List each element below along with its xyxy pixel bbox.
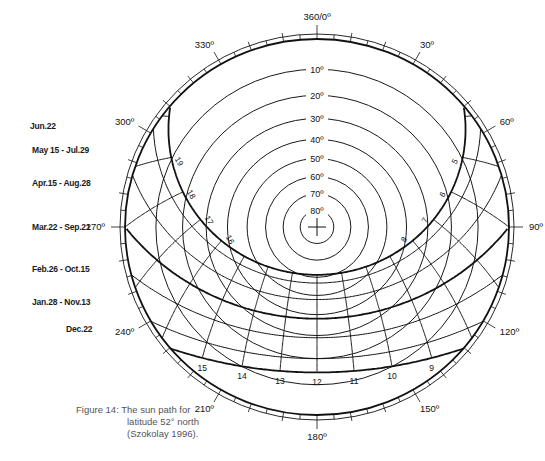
azimuth-tick [413, 52, 420, 64]
azimuth-tick [138, 306, 143, 308]
azimuth-label-240: 240º [115, 326, 135, 337]
azimuth-tick [138, 145, 143, 147]
altitude-label: 60º [310, 172, 324, 182]
azimuth-tick [214, 52, 221, 64]
azimuth-tick [398, 397, 400, 402]
azimuth-tick [413, 390, 420, 402]
hour-line-10 [366, 267, 392, 366]
azimuth-tick [156, 335, 160, 338]
date-label: May 15 - Jul.29 [32, 145, 89, 155]
azimuth-label-150: 150º [420, 403, 440, 414]
figure-caption: Figure 14: The sun path for latitude 52°… [76, 404, 199, 440]
hour-label: 11 [350, 376, 359, 386]
azimuth-tick [156, 116, 160, 119]
azimuth-tick [178, 360, 182, 364]
hour-line-5 [463, 157, 499, 166]
hour-label: 14 [237, 371, 247, 381]
caption-line-3: (Szokolay 1996). [76, 428, 199, 440]
caption-line-2: latitude 52° north [76, 416, 199, 428]
date-label: Feb.26 - Oct.15 [32, 264, 89, 274]
date-label: Jun.22 [30, 121, 56, 131]
hour-line-18 [125, 192, 183, 227]
hour-label: 10 [387, 371, 397, 381]
azimuth-tick [453, 91, 457, 95]
hour-label: 5 [450, 157, 460, 166]
azimuth-tick [204, 381, 207, 385]
hour-line-7 [434, 220, 499, 288]
hour-label: 12 [312, 377, 322, 387]
azimuth-label-300: 300º [115, 116, 135, 127]
azimuth-tick [474, 335, 478, 338]
altitude-label: 80º [310, 206, 324, 216]
hour-label: 13 [275, 376, 285, 386]
hour-line-19 [135, 157, 171, 166]
azimuth-tick [178, 91, 182, 95]
azimuth-tick [214, 390, 221, 402]
date-label: Mar.22 - Sep.21 [32, 222, 90, 232]
altitude-label: 50º [310, 154, 324, 164]
azimuth-tick [453, 360, 457, 364]
azimuth-tick [204, 69, 207, 73]
azimuth-tick [234, 397, 236, 402]
hour-label: 7 [420, 216, 430, 225]
altitude-label: 70º [310, 189, 324, 199]
hour-label: 15 [198, 363, 208, 373]
caption-line-1: The sun path for [121, 404, 190, 415]
date-label: Jan.28 - Nov.13 [32, 297, 90, 307]
azimuth-tick [491, 145, 496, 147]
date-label: Apr.15 - Aug.28 [32, 178, 91, 188]
zenith-cross-icon [308, 218, 326, 236]
azimuth-label-0: 360/0º [303, 11, 331, 22]
azimuth-tick [427, 69, 430, 73]
azimuth-label-330: 330º [195, 39, 215, 50]
hour-line-20 [163, 116, 170, 117]
azimuth-tick [234, 52, 236, 57]
hour-line-14 [242, 267, 268, 366]
hour-line-4 [465, 116, 472, 117]
figure-number: Figure 14: [76, 404, 119, 415]
azimuth-label-90: 90º [529, 221, 544, 232]
hour-label: 9 [429, 363, 434, 373]
altitude-label: 20º [310, 91, 324, 101]
azimuth-label-120: 120º [500, 326, 520, 337]
hour-line-6 [451, 192, 509, 227]
hour-label: 19 [173, 155, 186, 168]
azimuth-tick [427, 381, 430, 385]
azimuth-label-180: 180º [307, 431, 327, 442]
azimuth-label-30: 30º [420, 39, 435, 50]
altitude-label: 30º [310, 114, 324, 124]
azimuth-label-60: 60º [500, 116, 515, 127]
altitude-label: 40º [310, 135, 324, 145]
date-label: Dec.22 [66, 324, 92, 334]
hour-line-17 [135, 220, 200, 288]
altitude-label: 10º [310, 65, 324, 75]
azimuth-tick [398, 52, 400, 57]
azimuth-tick [491, 306, 496, 308]
hour-label: 8 [399, 235, 409, 244]
azimuth-tick [474, 116, 478, 119]
